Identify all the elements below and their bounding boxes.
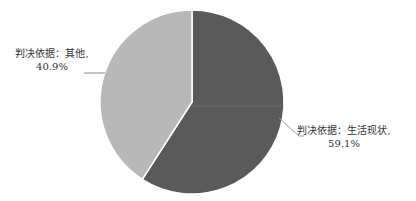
data-label-life-name: 判决依据：生活现状,	[284, 124, 404, 137]
data-label-life: 判决依据：生活现状, 59.1%	[284, 124, 404, 150]
data-label-other-value: 40.9%	[8, 60, 96, 73]
data-label-other-name: 判决依据：其他,	[8, 47, 96, 60]
pie-chart	[0, 0, 416, 201]
pie-slices	[100, 10, 284, 194]
data-label-other: 判决依据：其他, 40.9%	[8, 47, 96, 73]
data-label-life-value: 59.1%	[284, 137, 404, 150]
